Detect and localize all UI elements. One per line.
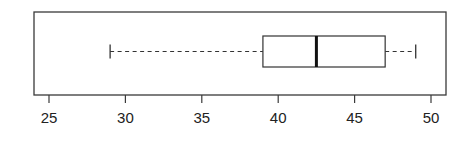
boxes-group <box>110 36 416 67</box>
x-tick-label-30: 30 <box>117 109 134 126</box>
box-0 <box>110 36 416 67</box>
x-tick-label-25: 25 <box>41 109 58 126</box>
interquartile-box <box>263 36 385 67</box>
x-tick-label-35: 35 <box>193 109 210 126</box>
x-tick-label-45: 45 <box>346 109 363 126</box>
x-tick-label-40: 40 <box>270 109 287 126</box>
x-axis: 253035404550 <box>41 95 440 126</box>
box-plot-chart: 253035404550 <box>0 0 473 142</box>
x-tick-label-50: 50 <box>423 109 440 126</box>
